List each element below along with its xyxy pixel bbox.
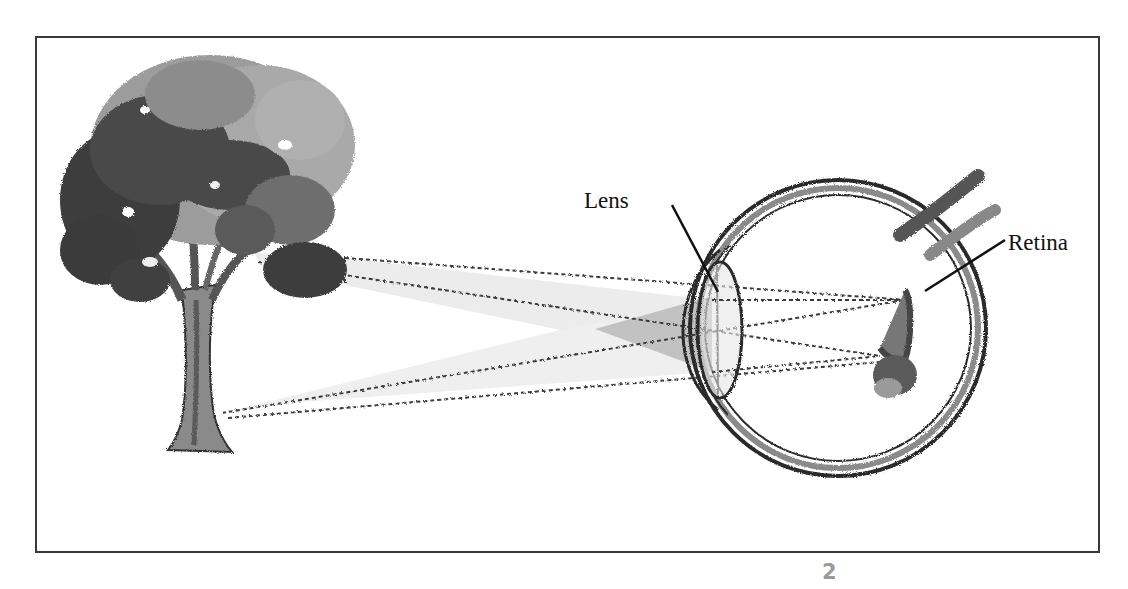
tree-trunk — [168, 285, 232, 452]
eye-diagram — [0, 0, 1128, 589]
lens-label: Lens — [584, 189, 629, 212]
lens — [698, 262, 742, 398]
page-number: 2 — [822, 560, 837, 584]
eye-illustration — [683, 176, 995, 476]
retina-label: Retina — [1008, 231, 1068, 254]
